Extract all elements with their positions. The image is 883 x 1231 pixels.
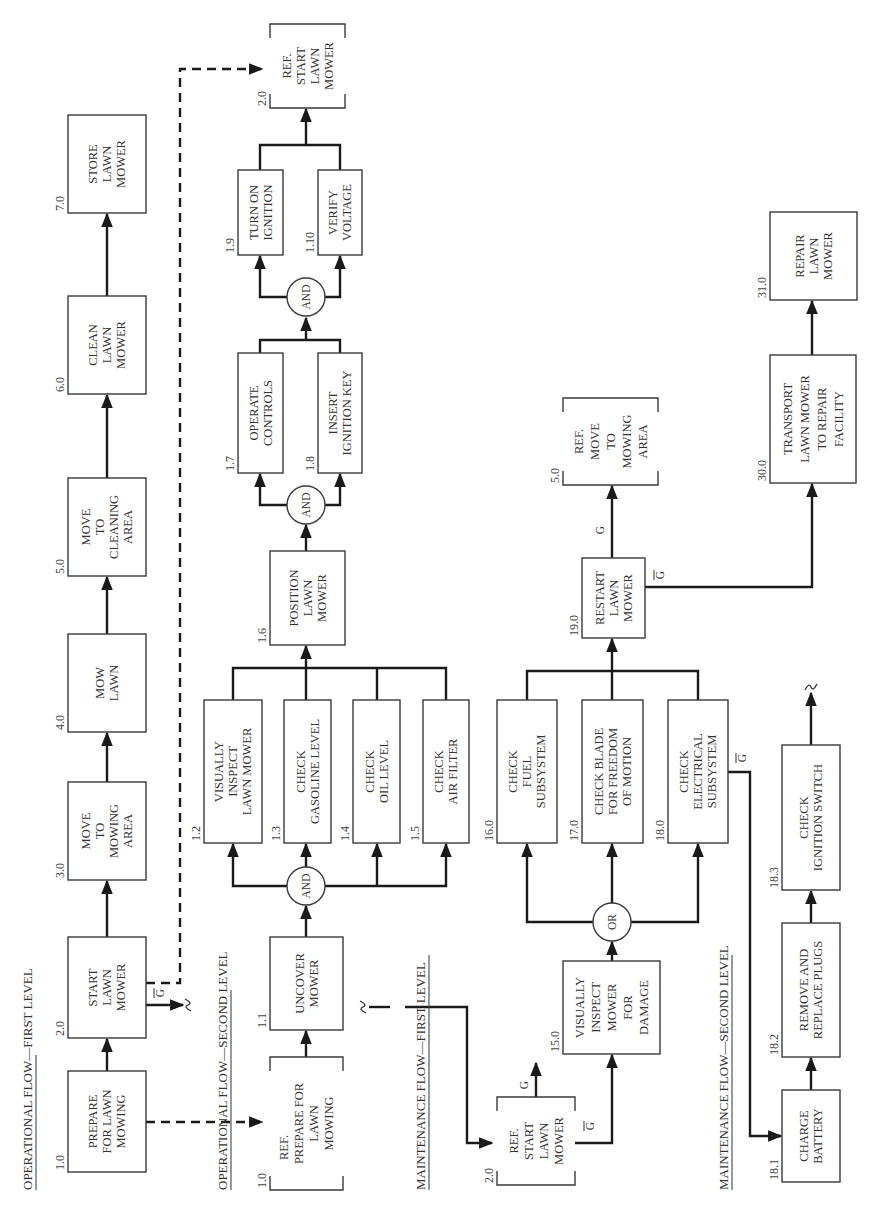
block-number: 18.3 [767,867,781,888]
block-label: FOR [621,995,635,1020]
block-label: FUEL [520,756,534,787]
and-gate-2-label: AND [300,493,312,518]
block-label: CHECK [432,750,446,792]
blocks [68,24,857,1190]
continuation-mark [185,999,191,1011]
block-label: CHECK [363,750,377,792]
block-label: IGNITION KEY [340,370,354,455]
block-label: TO [604,433,618,449]
block-label: OIL LEVEL [377,740,391,803]
block-label: MOWER [114,139,128,188]
merge-line [233,668,446,700]
block-number: 18.1 [767,1159,781,1180]
block-number: 19.0 [567,615,581,636]
block-number: 1.5 [408,826,422,841]
block-label: IGNITION SWITCH [811,764,825,871]
block-label: PREPARE [86,1094,100,1148]
block-label: DAMAGE [637,980,651,1035]
block-label: MOWER [322,41,336,90]
block-label: CLEAN [86,324,100,366]
block-label: MOWING [322,1096,336,1150]
block-label: START [522,1122,536,1160]
block-label: VISUALLY [212,741,226,802]
block-label: LAWN [307,1105,321,1142]
block-label: CLEANING [107,495,121,559]
block-number: 1.7 [223,456,237,471]
block-label: CHECK [294,750,308,792]
block-label: REMOVE AND [797,949,811,1031]
block-number: 18.2 [767,1034,781,1055]
block-label: STORE [86,144,100,184]
block-label: REPLACE PLUGS [811,941,825,1039]
and-gate-1-label: AND [300,874,312,899]
block-number: 3.0 [53,863,67,878]
block-label: MOWING [114,1094,128,1148]
ref-bracket-bottom [497,1171,575,1185]
block-label: ELECTRICAL [691,733,705,809]
block-label: FACILITY [832,391,846,447]
block-label: CHECK [677,750,691,792]
block-number: 1.4 [338,826,352,841]
ref-bracket-bottom [563,471,658,485]
functional-flow-diagram: OPERATIONAL FLOW—FIRST LEVELOPERATIONAL … [0,0,883,1231]
block-label: CHECK [797,796,811,838]
block-label: VOLTAGE [340,184,354,241]
block-label: AREA [636,424,650,458]
gbar-exit-arrow [645,484,812,587]
flow-arrow [527,844,593,922]
block-number: 6.0 [53,377,67,392]
block-number: 16.0 [482,820,496,841]
op1-gbar-label: G [154,989,166,997]
section-title-mt2: MAINTENANCE FLOW—SECOND LEVEL [716,945,731,1190]
block-label: LAWN [107,665,121,702]
mt1-gbar-label: G [584,1122,596,1130]
flow-arrow [631,844,698,922]
block-label: BATTERY [811,1108,825,1164]
section-title-mt1: MAINTENANCE FLOW—FIRST LEVEL [413,962,428,1190]
block-label: TURN ON [247,185,261,240]
section-title-op1: OPERATIONAL FLOW—FIRST LEVEL [20,968,35,1190]
ref-bracket-top [270,24,345,38]
ref-bracket-top [497,1097,575,1111]
block-label: VERIFY [326,190,340,235]
block-label: UNCOVER [293,953,307,1014]
ref-label: REF. [507,1128,521,1153]
block-label: RESTART [593,571,607,625]
block-number: 1.1 [255,1013,269,1028]
block-label: SUBSYSTEM [534,735,548,809]
block-label: LAWN [308,48,322,85]
block-number: 1.0 [255,1173,269,1188]
flow-arrow [325,474,340,505]
section-title-op2: OPERATIONAL FLOW—SECOND LEVEL [215,951,230,1190]
flow-arrow [325,844,446,886]
block-number: 15.0 [548,1031,562,1052]
connector-lines [107,69,817,1143]
block-label: LAWN [537,1123,551,1160]
block-number: 1.8 [303,456,317,471]
block-label: SUBSYSTEM [705,735,719,809]
ref-label: REF. [277,1135,291,1160]
block-label: CONTROLS [261,380,275,446]
continuation-mark [360,1001,366,1013]
block-number: 30.0 [755,460,769,481]
block-label: LAWN MOWER [240,727,254,815]
block-number: 1.9 [223,238,237,253]
block-label: INSERT [326,391,340,434]
block-number: 5.0 [548,468,562,483]
block-label: TO REPAIR [815,387,829,451]
block-number: 5.0 [53,559,67,574]
block-label: MOWER [307,959,321,1008]
block-label: TO [93,519,107,535]
flow-arrow [233,844,287,886]
flow-arrow [325,256,340,297]
block-number: 2.0 [482,1168,496,1183]
block-label: MOWER [621,573,635,622]
block-label: FOR FREEDOM [606,728,620,815]
block-number: 2.0 [255,91,269,106]
mt1-restart-g-label: G [594,526,606,534]
merge-line [260,340,340,353]
block-label: LAWN [807,238,821,275]
block-label: INSPECT [226,746,240,797]
block-label: TRANSPORT [781,383,795,456]
block-label: START [86,968,100,1006]
